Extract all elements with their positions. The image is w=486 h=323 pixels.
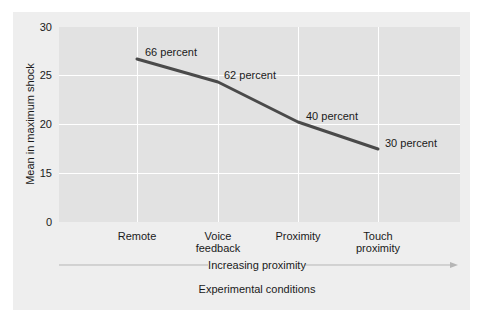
x-category-proximity: Proximity <box>275 230 321 242</box>
annotation-touch-proximity: 30 percent <box>385 137 437 149</box>
y-tick: 25 <box>40 69 52 81</box>
y-tick: 30 <box>40 21 52 33</box>
x-category-voice-line2: feedback <box>196 242 241 254</box>
x-category-voice-line1: Voice <box>205 230 232 242</box>
arrow-head-icon <box>450 262 458 268</box>
y-tick: 15 <box>40 167 52 179</box>
line-chart: 30 25 20 15 0 Mean in maximum shock 66 p… <box>0 0 486 323</box>
annotation-proximity: 40 percent <box>306 110 358 122</box>
y-axis-ticks: 30 25 20 15 0 <box>40 21 52 228</box>
y-axis-label: Mean in maximum shock <box>24 63 36 185</box>
y-tick: 20 <box>40 118 52 130</box>
annotation-remote: 66 percent <box>145 46 197 58</box>
x-category-touch-line2: proximity <box>356 242 401 254</box>
annotation-voice-feedback: 62 percent <box>224 69 276 81</box>
x-axis-label: Experimental conditions <box>199 283 316 295</box>
x-axis-categories: Remote Voice feedback Proximity Touch pr… <box>118 230 401 254</box>
increasing-proximity-arrow: Increasing proximity <box>59 259 458 271</box>
y-tick: 0 <box>46 216 52 228</box>
x-category-touch-line1: Touch <box>363 230 392 242</box>
x-category-remote: Remote <box>118 230 157 242</box>
arrow-label: Increasing proximity <box>208 259 306 271</box>
